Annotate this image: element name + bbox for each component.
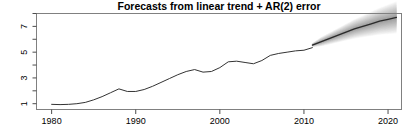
chart-canvas: Forecasts from linear trend + AR(2) erro… — [0, 0, 415, 133]
x-tick-label-2010: 2010 — [294, 116, 314, 126]
y-tick-label-7: 7 — [19, 24, 29, 29]
y-tick-label-3: 3 — [19, 75, 29, 80]
y-tick-label-5: 5 — [19, 50, 29, 55]
x-tick-label-2020: 2020 — [378, 116, 398, 126]
x-tick-label-1980: 1980 — [42, 116, 62, 126]
chart-background — [0, 0, 415, 133]
x-tick-label-2000: 2000 — [210, 116, 230, 126]
forecast-chart: Forecasts from linear trend + AR(2) erro… — [0, 0, 415, 133]
y-tick-label-1: 1 — [19, 101, 29, 106]
chart-title: Forecasts from linear trend + AR(2) erro… — [118, 0, 321, 12]
x-tick-label-1990: 1990 — [126, 116, 146, 126]
